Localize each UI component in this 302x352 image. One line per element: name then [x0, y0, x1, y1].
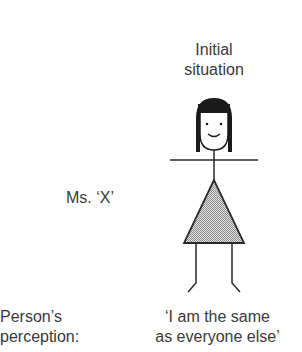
perception-quote: ‘I am the same as everyone else’	[133, 307, 302, 347]
stick-figure-icon	[0, 0, 302, 352]
right-leg	[232, 243, 240, 292]
perception-label: Person’s perception:	[0, 307, 79, 347]
perception-label-line-2: perception:	[0, 327, 79, 347]
left-leg	[188, 243, 196, 292]
perception-quote-line-1: ‘I am the same	[133, 307, 302, 327]
perception-label-line-1: Person’s	[0, 307, 79, 327]
face-icon	[198, 104, 230, 150]
perception-quote-line-2: as everyone else’	[133, 327, 302, 347]
dress-triangle	[184, 180, 244, 243]
